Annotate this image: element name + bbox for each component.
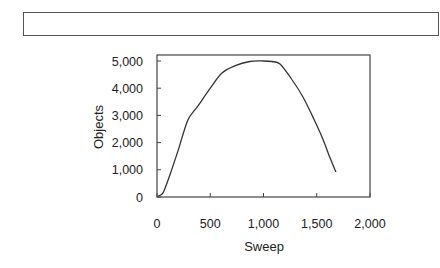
- plot-area: [157, 55, 370, 197]
- x-axis: 05001,0001,5002,000: [154, 193, 386, 231]
- y-tick-label: 5,000: [112, 55, 143, 69]
- x-tick-label: 1,500: [301, 217, 332, 231]
- data-line: [158, 61, 336, 196]
- x-tick-label: 1,000: [248, 217, 279, 231]
- plot-border: [157, 55, 370, 197]
- x-tick-label: 2,000: [354, 217, 385, 231]
- x-tick-label: 0: [154, 217, 161, 231]
- y-axis-title: Objects: [91, 104, 106, 149]
- x-axis-title: Sweep: [244, 239, 284, 254]
- y-tick-label: 0: [136, 191, 143, 205]
- y-axis: 01,0002,0003,0004,0005,000: [112, 55, 161, 205]
- line-chart: 01,0002,0003,0004,0005,000 05001,0001,50…: [0, 0, 440, 268]
- y-tick-label: 4,000: [112, 82, 143, 96]
- y-tick-label: 2,000: [112, 136, 143, 150]
- x-tick-label: 500: [200, 217, 221, 231]
- y-tick-label: 1,000: [112, 163, 143, 177]
- y-tick-label: 3,000: [112, 109, 143, 123]
